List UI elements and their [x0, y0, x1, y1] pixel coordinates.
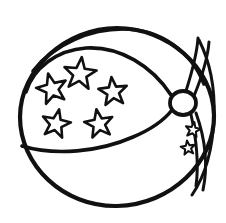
hub-circle: [170, 91, 196, 115]
coloring-page-canvas: Beach Ball Coloring Page Outline drawing…: [0, 0, 226, 223]
beach-ball-lineart: Beach Ball Coloring Page Outline drawing…: [0, 0, 226, 223]
